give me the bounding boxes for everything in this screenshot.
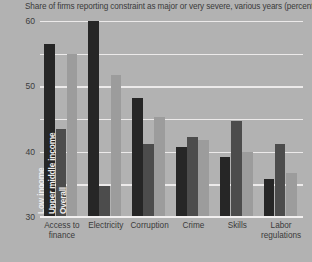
bar xyxy=(242,152,253,217)
bar xyxy=(143,144,154,218)
y-axis-tick-label: 30 xyxy=(25,212,35,222)
x-axis-category-label: Labor regulations xyxy=(255,221,307,240)
bar-group xyxy=(264,21,297,217)
bar xyxy=(231,121,242,217)
y-axis-tick-label: 60 xyxy=(25,16,35,26)
chart-title: Share of firms reporting constraint as m… xyxy=(25,2,310,12)
bar xyxy=(154,117,165,217)
bar-group xyxy=(88,21,121,217)
bar-group: Low incomeUpper middle incomeOverall xyxy=(44,21,77,217)
x-axis-baseline xyxy=(40,216,303,218)
bar xyxy=(220,157,231,217)
bar-group xyxy=(220,21,253,217)
bar xyxy=(132,98,143,217)
bar-group xyxy=(132,21,165,217)
bar xyxy=(88,21,99,217)
bar xyxy=(111,75,122,217)
y-axis-tick-label: 50 xyxy=(25,81,35,91)
bar xyxy=(286,173,297,217)
plot-area: 0102030405060 Low incomeUpper middle inc… xyxy=(40,21,303,217)
bar xyxy=(264,179,275,217)
bar xyxy=(275,144,286,218)
bar-group xyxy=(176,21,209,217)
bar xyxy=(198,140,209,217)
bar xyxy=(99,186,110,217)
bar xyxy=(67,54,78,217)
chart-screenshot: Share of firms reporting constraint as m… xyxy=(0,0,312,262)
bar xyxy=(187,137,198,217)
y-axis-tick-label: 40 xyxy=(25,147,35,157)
bar xyxy=(176,147,187,217)
